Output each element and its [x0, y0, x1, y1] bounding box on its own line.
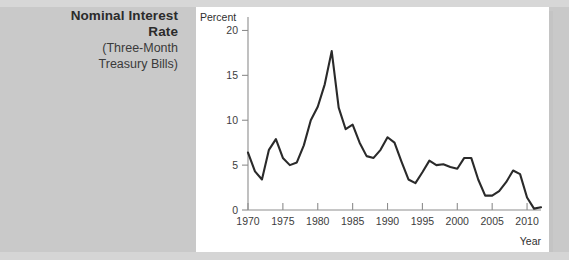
y-tick-group: 05101520: [226, 24, 248, 216]
top-band: [0, 0, 569, 7]
y-tick-label: 5: [232, 159, 238, 171]
caption-title-line-1: Nominal Interest: [0, 8, 178, 24]
x-tick-label: 1975: [271, 215, 295, 227]
x-axis-label: Year: [520, 235, 542, 247]
x-tick-label: 1990: [376, 215, 400, 227]
x-tick-label: 2005: [480, 215, 504, 227]
caption-title-line-2: Rate: [0, 24, 178, 40]
axis-group: [248, 17, 541, 210]
x-tick-label: 1985: [341, 215, 365, 227]
x-tick-label: 1980: [306, 215, 330, 227]
panel-shadow: [549, 11, 553, 252]
x-tick-group: 197019751980198519901995200020052010: [236, 203, 539, 227]
caption-subtitle-line-2: Treasury Bills): [0, 56, 178, 72]
y-tick-label: 15: [226, 69, 238, 81]
chart-panel: 05101520 1970197519801985199019952000200…: [196, 7, 549, 252]
caption-subtitle-line-1: (Three-Month: [0, 40, 178, 56]
bottom-band: [0, 252, 569, 260]
x-tick-label: 2010: [515, 215, 539, 227]
y-tick-label: 0: [232, 204, 238, 216]
x-tick-label: 1995: [411, 215, 435, 227]
interest-rate-line-chart: 05101520 1970197519801985199019952000200…: [196, 7, 549, 252]
y-axis-label: Percent: [200, 11, 236, 23]
x-tick-label: 1970: [236, 215, 260, 227]
chart-caption: Nominal Interest Rate (Three-Month Treas…: [0, 8, 186, 72]
y-tick-label: 20: [226, 24, 238, 36]
data-series-line: [248, 51, 541, 209]
y-tick-label: 10: [226, 114, 238, 126]
x-tick-label: 2000: [446, 215, 470, 227]
